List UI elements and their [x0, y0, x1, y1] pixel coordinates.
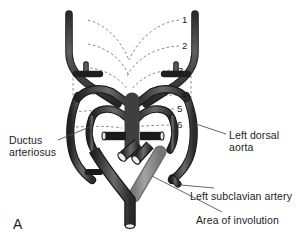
label-arch-6: 6 [177, 120, 182, 130]
label-arch-4: 4 [181, 90, 186, 100]
label-arch-2: 2 [182, 41, 187, 51]
vessel-left-subclavian-artery [172, 178, 178, 184]
vessel-descending-aorta [94, 150, 135, 228]
leader-left-dorsal-aorta [196, 124, 226, 134]
label-arch-5: 5 [177, 104, 182, 114]
vessel-inner-right-descending [170, 118, 175, 150]
label-area-of-involution: Area of involution [196, 214, 279, 226]
aortic-arch-figure: Ductus arteriosus Left dorsal aorta Left… [0, 0, 307, 246]
vessel-pulmonary-branch-right [140, 132, 164, 140]
label-arch-1: 1 [182, 15, 187, 25]
vessel-pulmonary-branch-left [102, 132, 126, 140]
aortic-arch-diagram [0, 0, 307, 246]
label-left-subclavian-artery: Left subclavian artery [190, 190, 292, 202]
label-arch-3: 3 [178, 66, 183, 76]
panel-letter: A [13, 216, 22, 232]
label-ductus-arteriosus: Ductus arteriosus [9, 134, 56, 158]
vessel-ductus-arteriosus [89, 118, 94, 150]
label-left-dorsal-aorta: Left dorsal aorta [229, 129, 279, 153]
leader-left-subclavian [181, 185, 214, 188]
branch-stub-right [164, 64, 188, 74]
vessel-inner-arch-right [134, 109, 172, 122]
